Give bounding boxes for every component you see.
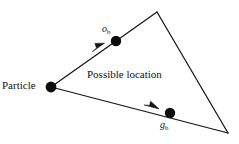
possible-location-label: Possible location bbox=[87, 69, 162, 80]
particle-label: Particle bbox=[2, 80, 36, 91]
o-b-label-subscript: b bbox=[107, 28, 110, 35]
g-b-label: gb bbox=[160, 120, 168, 130]
lower-arrowhead-icon bbox=[144, 101, 159, 109]
o-b-dot bbox=[111, 36, 121, 46]
g-b-label-subscript: b bbox=[165, 124, 168, 131]
figure-canvas: Particle Possible location ob gb bbox=[0, 0, 239, 144]
particle-dot bbox=[46, 82, 57, 93]
edge-particle-to-right bbox=[51, 87, 228, 133]
g-b-dot bbox=[165, 108, 175, 118]
o-b-label: ob bbox=[102, 24, 110, 34]
